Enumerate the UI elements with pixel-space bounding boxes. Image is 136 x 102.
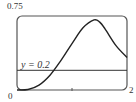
chart-plot (0, 0, 136, 102)
x-max-label: 2 (129, 86, 134, 95)
origin-label: 0 (8, 92, 13, 101)
reference-line-label: y = 0.2 (21, 60, 50, 70)
curve-series (17, 20, 127, 90)
plot-frame (17, 16, 127, 90)
y-max-label: 0.75 (7, 2, 23, 11)
